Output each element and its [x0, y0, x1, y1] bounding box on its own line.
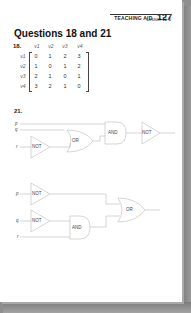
or-gate-label: OR: [72, 138, 79, 143]
page-shadow-bottom: [3, 302, 191, 313]
input-r-label: r: [17, 234, 19, 239]
input-q-label: q: [15, 127, 18, 132]
not-gate-label: NOT: [32, 218, 42, 223]
or-gate-label: OR: [126, 207, 133, 212]
logic-circuits: [0, 0, 182, 302]
input-q-label: q: [16, 218, 19, 223]
input-p-label: p: [16, 191, 19, 196]
and-gate-label: AND: [108, 130, 118, 135]
and-gate-label: AND: [72, 225, 82, 230]
page-shadow-right: [182, 6, 191, 313]
worksheet-page: TEACHING AID 127 Lesson 11-5 Questions 1…: [0, 0, 182, 302]
input-p-label: p: [15, 121, 18, 126]
not-gate-label: NOT: [32, 191, 42, 196]
not-gate-label: NOT: [32, 144, 42, 149]
input-r-label: r: [16, 144, 18, 149]
not-gate-label: NOT: [142, 130, 152, 135]
